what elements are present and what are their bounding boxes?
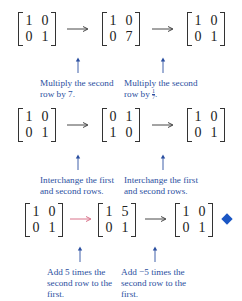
right-arrow-icon [67, 24, 89, 34]
right-bracket [58, 203, 63, 237]
right-bracket [135, 108, 140, 142]
matrix-row2-b: 0 1 1 0 [102, 108, 140, 142]
matrix-cell: 1 [208, 29, 220, 45]
matrix-cell: 1 [123, 109, 135, 125]
matrix-row3-c: 1 0 0 1 [175, 203, 213, 237]
right-arrow-icon [152, 120, 174, 130]
right-arrow-icon [152, 24, 174, 34]
right-arrow-icon [70, 214, 92, 224]
matrix-cell: 0 [208, 13, 220, 29]
matrix-cell: 1 [192, 13, 204, 29]
step-annotation: Add 5 times the second row to the first. [47, 267, 115, 300]
matrix-cell: 1 [196, 220, 208, 236]
matrix-cell: 0 [192, 125, 204, 141]
matrix-cell: 0 [180, 220, 192, 236]
matrix-cell: 1 [39, 125, 51, 141]
matrix-cell: 0 [107, 109, 119, 125]
right-bracket [51, 12, 56, 46]
matrix-row3-a: 1 0 0 1 [25, 203, 63, 237]
matrix-cell: 0 [208, 109, 220, 125]
up-arrow-icon [152, 246, 158, 262]
step-annotation: Interchange the first and second rows. [40, 175, 122, 197]
matrix-cell: 0 [46, 204, 58, 220]
matrix-cell: 1 [39, 29, 51, 45]
annotation-text: Multiply the second row by [124, 78, 198, 99]
up-arrow-icon [75, 154, 81, 170]
step-annotation: Add −5 times the second row to the first… [121, 267, 189, 300]
right-bracket [135, 12, 140, 46]
matrix-cell: 1 [107, 125, 119, 141]
up-arrow-icon [160, 57, 166, 73]
up-arrow-icon [160, 154, 166, 170]
right-bracket [51, 108, 56, 142]
up-arrow-icon [75, 57, 81, 73]
matrix-row1-c: 1 0 0 1 [187, 12, 225, 46]
matrix-row1-b: 1 0 0 7 [102, 12, 140, 46]
matrix-cell: 0 [39, 109, 51, 125]
matrix-row2-a: 1 0 0 1 [18, 108, 56, 142]
matrix-row3-b: 1 5 0 1 [98, 203, 136, 237]
annotation-text: . [155, 89, 157, 99]
matrix-cell: 0 [39, 13, 51, 29]
step-annotation: Multiply the second row by 7. [40, 78, 118, 100]
matrix-cell: 5 [119, 204, 131, 220]
matrix-cell: 1 [23, 13, 35, 29]
matrix-cell: 0 [23, 125, 35, 141]
matrix-cell: 1 [46, 220, 58, 236]
matrix-row2-c: 1 0 0 1 [187, 108, 225, 142]
right-bracket [220, 108, 225, 142]
step-annotation: Multiply the second row by 17. [124, 78, 204, 100]
matrix-cell: 1 [23, 109, 35, 125]
matrix-cell: 0 [192, 29, 204, 45]
right-arrow-icon [145, 214, 167, 224]
matrix-cell: 0 [196, 204, 208, 220]
matrix-cell: 0 [123, 13, 135, 29]
matrix-cell: 0 [23, 29, 35, 45]
matrix-cell: 1 [208, 125, 220, 141]
right-bracket [208, 203, 213, 237]
matrix-cell: 0 [123, 125, 135, 141]
matrix-row1-a: 1 0 0 1 [18, 12, 56, 46]
matrix-cell: 1 [107, 13, 119, 29]
matrix-cell: 0 [103, 220, 115, 236]
up-arrow-icon [77, 246, 83, 262]
matrix-cell: 1 [119, 220, 131, 236]
right-bracket [220, 12, 225, 46]
matrix-cell: 1 [30, 204, 42, 220]
right-bracket [131, 203, 136, 237]
end-of-example-diamond-icon [221, 213, 232, 224]
step-annotation: Interchange the first and second rows. [124, 175, 206, 197]
matrix-cell: 0 [30, 220, 42, 236]
matrix-cell: 1 [180, 204, 192, 220]
matrix-cell: 1 [103, 204, 115, 220]
matrix-cell: 7 [123, 29, 135, 45]
matrix-cell: 1 [192, 109, 204, 125]
matrix-cell: 0 [107, 29, 119, 45]
right-arrow-icon [67, 120, 89, 130]
